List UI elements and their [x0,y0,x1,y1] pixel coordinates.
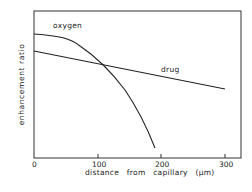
plot-frame [34,11,241,158]
x-tick-label-0: 0 [32,160,37,169]
drug-line [34,51,225,89]
chart-plot [0,0,252,192]
y-axis-label: enhancement ratio [17,40,26,130]
x-tick-label-300: 300 [219,160,233,169]
oxygen-curve [34,34,155,148]
oxygen-label: oxygen [53,21,82,30]
drug-label: drug [161,65,180,74]
x-axis-label: distance from capillary (μm) [85,168,215,177]
